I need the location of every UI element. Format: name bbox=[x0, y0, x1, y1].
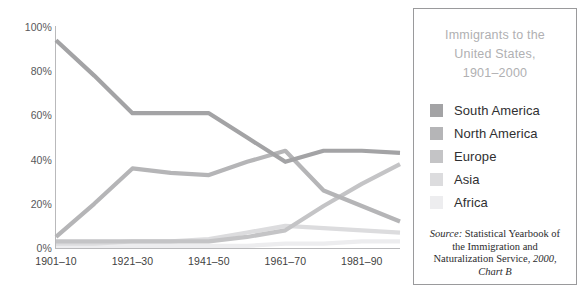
series-line bbox=[56, 40, 400, 162]
x-axis: 1901–101921–301941–501961–701981–90 bbox=[56, 255, 400, 271]
source-note: Source: Statistical Yearbook of the Immi… bbox=[427, 228, 563, 278]
y-tick-label: 20% bbox=[12, 199, 52, 209]
x-tick-label: 1921–30 bbox=[97, 255, 167, 268]
x-axis-line bbox=[55, 248, 400, 249]
legend-panel: Immigrants to theUnited States,1901–2000… bbox=[413, 8, 577, 285]
series-lines bbox=[56, 27, 400, 248]
legend-title-line: United States, bbox=[428, 45, 562, 64]
y-tick-label: 0% bbox=[12, 243, 52, 253]
y-tick-label: 80% bbox=[12, 66, 52, 76]
legend-item[interactable]: North America bbox=[430, 122, 576, 145]
legend-item-label: Africa bbox=[454, 195, 488, 210]
legend-color-swatch bbox=[430, 150, 443, 163]
legend-item[interactable]: Asia bbox=[430, 168, 576, 191]
legend-item[interactable]: Europe bbox=[430, 145, 576, 168]
legend-title-line: Immigrants to the bbox=[428, 26, 562, 45]
legend-item-label: Asia bbox=[454, 172, 480, 187]
source-prefix: Source: bbox=[430, 228, 462, 239]
legend-item[interactable]: Africa bbox=[430, 191, 576, 214]
legend-item-label: South America bbox=[454, 103, 540, 118]
chart-page: 100%80%60%40%20%0% 1901–101921–301941–50… bbox=[0, 0, 586, 293]
plot-area bbox=[56, 27, 400, 248]
y-tick-label: 100% bbox=[12, 22, 52, 32]
x-tick-label: 1961–70 bbox=[250, 255, 320, 268]
legend-item-label: North America bbox=[454, 126, 538, 141]
x-tick-label: 1981–90 bbox=[327, 255, 397, 268]
x-tick-label: 1941–50 bbox=[174, 255, 244, 268]
y-tick-label: 40% bbox=[12, 155, 52, 165]
legend-color-swatch bbox=[430, 196, 443, 209]
legend-item-label: Europe bbox=[454, 149, 497, 164]
x-tick-label: 1901–10 bbox=[21, 255, 91, 268]
legend-color-swatch bbox=[430, 127, 443, 140]
legend-color-swatch bbox=[430, 173, 443, 186]
y-tick-label: 60% bbox=[12, 110, 52, 120]
y-axis: 100%80%60%40%20%0% bbox=[8, 0, 52, 293]
legend-color-swatch bbox=[430, 104, 443, 117]
legend-entries: South AmericaNorth AmericaEuropeAsiaAfri… bbox=[430, 99, 576, 214]
legend-item[interactable]: South America bbox=[430, 99, 576, 122]
line-chart: 100%80%60%40%20%0% 1901–101921–301941–50… bbox=[0, 0, 404, 293]
legend-title-line: 1901–2000 bbox=[428, 64, 562, 83]
legend-title: Immigrants to theUnited States,1901–2000 bbox=[428, 26, 562, 83]
